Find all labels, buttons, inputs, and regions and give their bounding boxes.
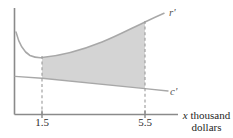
x-tick-label-1-5: 1.5 xyxy=(28,117,56,129)
x-tick-label-5-5: 5.5 xyxy=(131,117,159,129)
x-axis-unit-word-2: dollars xyxy=(180,122,233,134)
marginal-revenue-cost-figure: r' c' 1.5 5.5 x thousand dollars xyxy=(0,0,233,138)
x-axis-unit-word: thousand xyxy=(188,109,230,121)
marginal-revenue-label: r' xyxy=(169,7,176,19)
marginal-cost-label: c' xyxy=(170,86,177,98)
x-axis-caption: x thousand dollars xyxy=(180,110,233,133)
